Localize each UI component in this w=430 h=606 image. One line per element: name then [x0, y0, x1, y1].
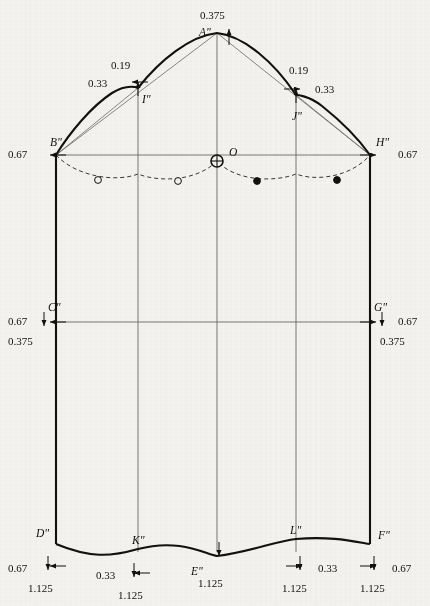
dimension-value-e-down: 1.125	[198, 578, 223, 589]
dimension-arrows-group	[44, 29, 382, 577]
sleeve-hem-curve	[56, 538, 370, 556]
dimension-value-g-down: 0.375	[380, 336, 405, 347]
construction-chord-left	[56, 33, 217, 155]
origin-marker	[211, 155, 223, 167]
hollow-curve-marker-1	[175, 178, 182, 185]
gridlines-group	[56, 33, 370, 552]
point-label-A: A"	[199, 27, 211, 39]
dimension-value-d-down: 1.125	[28, 583, 53, 594]
point-label-K: K"	[132, 535, 145, 547]
point-label-O: O	[229, 147, 237, 159]
construction-chord-through-i	[56, 88, 138, 155]
point-label-G: G"	[374, 302, 387, 314]
filled-curve-marker-3	[334, 177, 341, 184]
dimension-value-j-right: 0.33	[315, 84, 334, 95]
dimension-value-l-down: 1.125	[282, 583, 307, 594]
dimension-value-c-down: 0.375	[8, 336, 33, 347]
dimension-value-k-down: 1.125	[118, 590, 143, 601]
dimension-value-j-up: 0.19	[289, 65, 308, 76]
dimension-value-b-left: 0.67	[8, 149, 27, 160]
construction-chord-through-j	[296, 95, 370, 155]
diagram-canvas: A"B"C"D"E"F"G"H"I"J"K"L"O 0.3750.190.330…	[0, 0, 430, 606]
dimension-value-i-left: 0.33	[88, 78, 107, 89]
dimension-value-f-right: 0.67	[392, 563, 411, 574]
point-label-H: H"	[376, 137, 389, 149]
point-label-I: I"	[142, 94, 151, 106]
dimension-value-a-up: 0.375	[200, 10, 225, 21]
point-label-L: L"	[290, 525, 301, 537]
dimension-value-l-right: 0.33	[318, 563, 337, 574]
dimension-value-i-up: 0.19	[111, 60, 130, 71]
dimension-value-f-down: 1.125	[360, 583, 385, 594]
point-label-B: B"	[50, 137, 62, 149]
dimension-value-g-right: 0.67	[398, 316, 417, 327]
pattern-drafting-svg	[0, 0, 430, 606]
filled-curve-marker-2	[254, 178, 261, 185]
curve-markers-group	[95, 177, 341, 185]
point-label-C: C"	[48, 302, 61, 314]
dimension-value-h-right: 0.67	[398, 149, 417, 160]
dimension-value-c-left: 0.67	[8, 316, 27, 327]
point-label-D: D"	[36, 528, 49, 540]
dimension-value-k-left: 0.33	[96, 570, 115, 581]
dimension-value-d-left: 0.67	[8, 563, 27, 574]
hollow-curve-marker-0	[95, 177, 102, 184]
point-label-E: E"	[191, 566, 203, 578]
point-label-J: J"	[292, 111, 302, 123]
point-label-F: F"	[378, 530, 390, 542]
